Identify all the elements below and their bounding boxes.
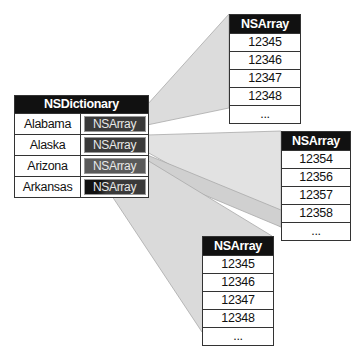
dictionary-value: NSArray — [84, 116, 146, 132]
dictionary-value: NSArray — [84, 179, 146, 195]
dictionary-key: Arkansas — [15, 177, 81, 197]
dictionary-row: Alabama NSArray — [15, 113, 148, 134]
dictionary-row: Alaska NSArray — [15, 134, 148, 155]
dictionary-key: Arizona — [15, 156, 81, 176]
array-item: ... — [282, 222, 350, 240]
dictionary-value: NSArray — [84, 137, 146, 153]
array-title: NSArray — [230, 15, 300, 33]
dictionary-row: Arkansas NSArray — [15, 176, 148, 197]
array-item: 12347 — [230, 69, 300, 87]
dictionary-value: NSArray — [84, 158, 146, 174]
array-title: NSArray — [282, 132, 350, 150]
array-item: 12348 — [203, 309, 273, 327]
nsarray-bottom-table: NSArray 12345 12346 12347 12348 ... — [202, 236, 274, 346]
array-item: 12346 — [203, 273, 273, 291]
array-item: ... — [203, 327, 273, 345]
array-item: 12356 — [282, 168, 350, 186]
dictionary-title: NSDictionary — [15, 96, 148, 113]
dictionary-row: Arizona NSArray — [15, 155, 148, 176]
array-title: NSArray — [203, 237, 273, 255]
array-item: 12345 — [203, 255, 273, 273]
array-item: 12345 — [230, 33, 300, 51]
array-item: 12348 — [230, 87, 300, 105]
wedge-alabama — [147, 14, 229, 125]
array-item: ... — [230, 105, 300, 123]
nsdictionary-table: NSDictionary Alabama NSArray Alaska NSAr… — [14, 95, 149, 198]
array-item: 12358 — [282, 204, 350, 222]
array-item: 12354 — [282, 150, 350, 168]
array-item: 12346 — [230, 51, 300, 69]
nsarray-top-table: NSArray 12345 12346 12347 12348 ... — [229, 14, 301, 124]
array-item: 12357 — [282, 186, 350, 204]
array-item: 12347 — [203, 291, 273, 309]
nsarray-right-table: NSArray 12354 12356 12357 12358 ... — [281, 131, 351, 241]
dictionary-key: Alaska — [15, 135, 81, 155]
dictionary-key: Alabama — [15, 114, 81, 134]
